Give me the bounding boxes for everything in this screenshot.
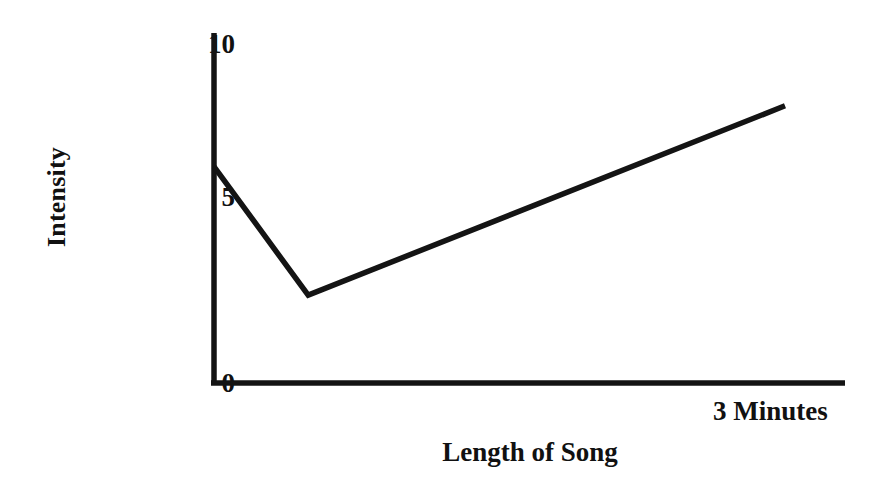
data-series-line bbox=[214, 106, 785, 295]
chart-canvas: 10 5 0 Intensity Length of Song 3 Minute… bbox=[0, 0, 883, 496]
plot-area bbox=[0, 0, 883, 496]
